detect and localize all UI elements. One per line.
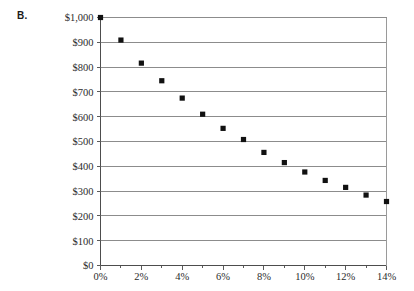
x-tick-label-14: 14% [377, 271, 397, 282]
y-tick-label-200: $200 [73, 211, 94, 222]
x-tick-label-10: 10% [295, 271, 315, 282]
y-tick-label-500: $500 [73, 136, 94, 147]
data-point [241, 137, 246, 142]
y-tick-label-700: $700 [73, 87, 94, 98]
x-tick-label-6: 6% [216, 271, 230, 282]
data-point [384, 199, 389, 204]
x-tick-label-8: 8% [257, 271, 271, 282]
chart-canvas: $0$100$200$300$400$500$600$700$800$900$1… [0, 0, 414, 291]
scatter-chart: $0$100$200$300$400$500$600$700$800$900$1… [0, 0, 414, 291]
x-tick-label-0: 0% [94, 271, 108, 282]
y-tick-label-1000: $1,000 [65, 12, 94, 23]
data-point [98, 15, 103, 20]
y-tick-label-300: $300 [73, 186, 94, 197]
data-point [200, 112, 205, 117]
y-tick-label-100: $100 [73, 236, 94, 247]
y-tick-label-400: $400 [73, 161, 94, 172]
x-tick-label-2: 2% [134, 271, 148, 282]
data-point [180, 96, 185, 101]
data-point [282, 160, 287, 165]
y-tick-label-600: $600 [73, 112, 94, 123]
gridlines-group [101, 18, 387, 241]
x-tick-label-12: 12% [336, 271, 356, 282]
data-point [261, 150, 266, 155]
data-points-group [98, 15, 389, 204]
data-point [220, 126, 225, 131]
figure-panel-b: B. $0$100$200$300$400$500$600$700$800$90… [0, 0, 414, 291]
data-point [323, 178, 328, 183]
y-tick-label-800: $800 [73, 62, 94, 73]
data-point [363, 192, 368, 197]
data-point [302, 169, 307, 174]
data-point [118, 37, 123, 42]
x-axis-ticks [97, 18, 387, 270]
y-axis-tick-labels: $0$100$200$300$400$500$600$700$800$900$1… [65, 12, 94, 271]
data-point [139, 61, 144, 66]
data-point [159, 78, 164, 83]
y-tick-label-0: $0 [83, 260, 94, 271]
x-axis-tick-labels: 0%2%4%6%8%10%12%14% [94, 271, 397, 282]
data-point [343, 185, 348, 190]
y-tick-label-900: $900 [73, 37, 94, 48]
x-tick-label-4: 4% [175, 271, 189, 282]
